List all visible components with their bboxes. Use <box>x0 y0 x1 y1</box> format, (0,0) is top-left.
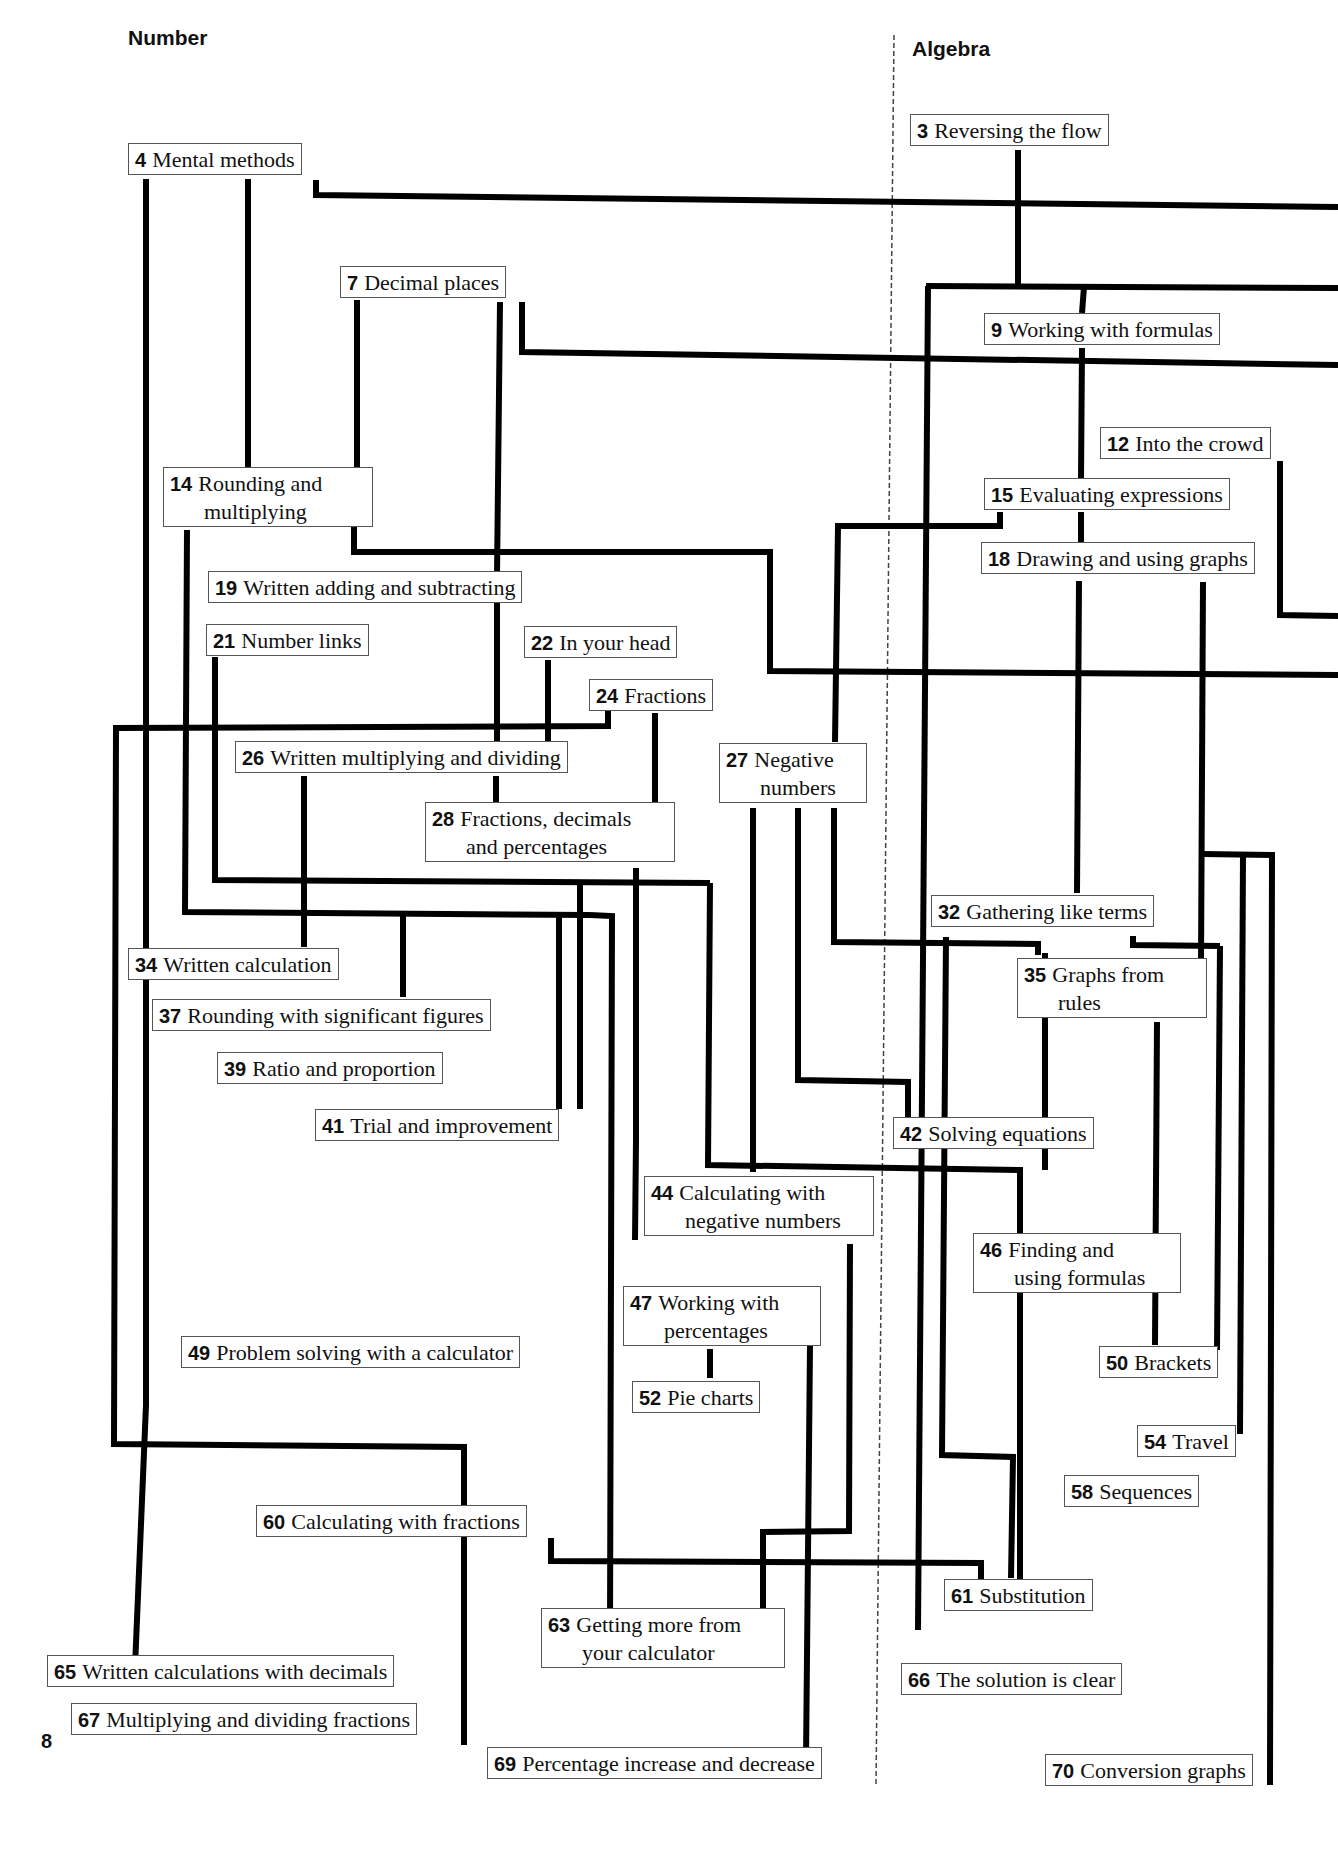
topic-title: In your head <box>559 630 670 655</box>
topic-number: 49 <box>188 1342 210 1364</box>
topic-title: Working with formulas <box>1008 317 1213 342</box>
topic-node-15[interactable]: 15Evaluating expressions <box>984 478 1230 510</box>
topic-number: 61 <box>951 1585 973 1607</box>
topic-number: 60 <box>263 1511 285 1533</box>
topic-title: Finding and <box>1008 1237 1114 1262</box>
topic-number: 27 <box>726 749 748 771</box>
topic-number: 69 <box>494 1753 516 1775</box>
prerequisite-diagram: Number Algebra 8 3Reversing the flow 4Me… <box>0 0 1338 1856</box>
topic-node-46[interactable]: 46Finding andusing formulas <box>973 1233 1181 1293</box>
topic-title-line2: numbers <box>726 774 860 802</box>
topic-node-66[interactable]: 66The solution is clear <box>901 1663 1122 1695</box>
topic-node-34[interactable]: 34Written calculation <box>128 948 339 980</box>
topic-title: Brackets <box>1134 1350 1211 1375</box>
topic-node-32[interactable]: 32Gathering like terms <box>931 895 1154 927</box>
topic-title: Ratio and proportion <box>252 1056 435 1081</box>
topic-node-49[interactable]: 49Problem solving with a calculator <box>181 1336 520 1368</box>
topic-node-9[interactable]: 9Working with formulas <box>984 313 1220 345</box>
topic-node-14[interactable]: 14Rounding andmultiplying <box>163 467 373 527</box>
topic-title: Written calculation <box>163 952 331 977</box>
topic-number: 3 <box>917 120 928 142</box>
section-title-algebra: Algebra <box>912 37 990 61</box>
topic-title: Decimal places <box>364 270 499 295</box>
topic-title: Problem solving with a calculator <box>216 1340 513 1365</box>
topic-node-24[interactable]: 24Fractions <box>589 679 713 711</box>
topic-title-line2: using formulas <box>980 1264 1174 1292</box>
topic-node-21[interactable]: 21Number links <box>206 624 369 656</box>
topic-title-line2: percentages <box>630 1317 814 1345</box>
topic-number: 21 <box>213 630 235 652</box>
topic-title: Rounding with significant figures <box>187 1003 483 1028</box>
topic-number: 39 <box>224 1058 246 1080</box>
topic-title: Number links <box>241 628 361 653</box>
topic-node-52[interactable]: 52Pie charts <box>632 1381 760 1413</box>
topic-title-line2: your calculator <box>548 1639 778 1667</box>
topic-title: Percentage increase and decrease <box>522 1751 815 1776</box>
topic-number: 14 <box>170 473 192 495</box>
topic-title: Gathering like terms <box>966 899 1147 924</box>
topic-number: 24 <box>596 685 618 707</box>
topic-title: Trial and improvement <box>350 1113 552 1138</box>
topic-title: Drawing and using graphs <box>1016 546 1248 571</box>
topic-node-35[interactable]: 35Graphs fromrules <box>1017 958 1207 1018</box>
topic-node-27[interactable]: 27Negativenumbers <box>719 743 867 803</box>
topic-number: 32 <box>938 901 960 923</box>
topic-title: Multiplying and dividing fractions <box>106 1707 410 1732</box>
topic-node-39[interactable]: 39Ratio and proportion <box>217 1052 443 1084</box>
topic-node-70[interactable]: 70Conversion graphs <box>1045 1754 1253 1786</box>
topic-node-65[interactable]: 65Written calculations with decimals <box>47 1655 394 1687</box>
topic-node-47[interactable]: 47Working withpercentages <box>623 1286 821 1346</box>
topic-title-line2: multiplying <box>170 498 366 526</box>
topic-number: 54 <box>1144 1431 1166 1453</box>
topic-number: 4 <box>135 149 146 171</box>
topic-title: Written multiplying and dividing <box>270 745 561 770</box>
topic-node-26[interactable]: 26Written multiplying and dividing <box>235 741 568 773</box>
topic-number: 63 <box>548 1614 570 1636</box>
topic-number: 37 <box>159 1005 181 1027</box>
topic-title: Calculating with fractions <box>291 1509 520 1534</box>
topic-node-54[interactable]: 54Travel <box>1137 1425 1236 1457</box>
topic-node-50[interactable]: 50Brackets <box>1099 1346 1218 1378</box>
topic-node-18[interactable]: 18Drawing and using graphs <box>981 542 1255 574</box>
topic-node-41[interactable]: 41Trial and improvement <box>315 1109 559 1141</box>
topic-node-22[interactable]: 22In your head <box>524 626 677 658</box>
topic-number: 42 <box>900 1123 922 1145</box>
topic-node-19[interactable]: 19Written adding and subtracting <box>208 571 522 603</box>
topic-title: Graphs from <box>1052 962 1164 987</box>
topic-title: The solution is clear <box>936 1667 1115 1692</box>
topic-node-69[interactable]: 69Percentage increase and decrease <box>487 1747 822 1779</box>
topic-node-60[interactable]: 60Calculating with fractions <box>256 1505 527 1537</box>
connector-lines <box>0 0 1338 1856</box>
topic-node-3[interactable]: 3Reversing the flow <box>910 114 1109 146</box>
topic-node-7[interactable]: 7Decimal places <box>340 266 506 298</box>
topic-node-63[interactable]: 63Getting more fromyour calculator <box>541 1608 785 1668</box>
topic-number: 47 <box>630 1292 652 1314</box>
topic-title-line2: and percentages <box>432 833 668 861</box>
topic-title-line2: negative numbers <box>651 1207 867 1235</box>
topic-number: 28 <box>432 808 454 830</box>
topic-title: Mental methods <box>152 147 294 172</box>
topic-title: Into the crowd <box>1135 431 1263 456</box>
topic-node-12[interactable]: 12Into the crowd <box>1100 427 1271 459</box>
topic-number: 66 <box>908 1669 930 1691</box>
page-number: 8 <box>41 1730 52 1753</box>
topic-title: Working with <box>658 1290 779 1315</box>
topic-node-37[interactable]: 37Rounding with significant figures <box>152 999 491 1031</box>
topic-title: Fractions, decimals <box>460 806 631 831</box>
topic-node-42[interactable]: 42Solving equations <box>893 1117 1094 1149</box>
topic-number: 22 <box>531 632 553 654</box>
topic-number: 65 <box>54 1661 76 1683</box>
topic-title: Conversion graphs <box>1080 1758 1246 1783</box>
topic-title: Getting more from <box>576 1612 741 1637</box>
topic-title: Evaluating expressions <box>1019 482 1222 507</box>
topic-node-28[interactable]: 28Fractions, decimalsand percentages <box>425 802 675 862</box>
topic-node-61[interactable]: 61Substitution <box>944 1579 1093 1611</box>
topic-number: 15 <box>991 484 1013 506</box>
topic-node-44[interactable]: 44Calculating withnegative numbers <box>644 1176 874 1236</box>
topic-title: Reversing the flow <box>934 118 1101 143</box>
topic-node-67[interactable]: 67Multiplying and dividing fractions <box>71 1703 417 1735</box>
topic-number: 70 <box>1052 1760 1074 1782</box>
topic-node-4[interactable]: 4Mental methods <box>128 143 302 175</box>
topic-node-58[interactable]: 58Sequences <box>1064 1475 1199 1507</box>
topic-number: 12 <box>1107 433 1129 455</box>
